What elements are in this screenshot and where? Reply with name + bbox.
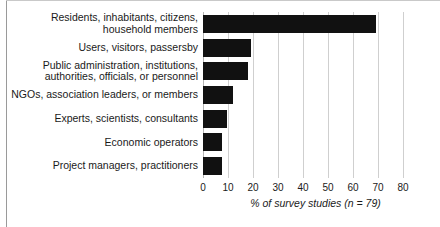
category-label: Economic operators <box>10 137 198 149</box>
gridline-70 <box>378 12 379 178</box>
category-label: Experts, scientists, consultants <box>10 113 198 125</box>
bar <box>203 86 233 104</box>
bar-row <box>203 62 248 80</box>
x-axis-title: % of survey studies (n = 79) <box>203 197 428 209</box>
x-tick-label-70: 70 <box>372 182 383 193</box>
category-label: Project managers, practitioners <box>10 160 198 172</box>
bar-row <box>203 133 222 151</box>
gridline-30 <box>278 12 279 178</box>
bar-chart-figure: Residents, inhabitants, citizens, househ… <box>0 0 440 227</box>
x-tick-label-50: 50 <box>322 182 333 193</box>
bar <box>203 133 222 151</box>
x-tick-label-0: 0 <box>200 182 206 193</box>
bar-row <box>203 110 227 128</box>
plot-area: 01020304050607080 <box>203 12 428 178</box>
gridline-20 <box>253 12 254 178</box>
bar <box>203 157 222 175</box>
bar-row <box>203 157 222 175</box>
category-label: Users, visitors, passersby <box>10 42 198 54</box>
gridline-40 <box>303 12 304 178</box>
bar-row <box>203 86 233 104</box>
gridline-80 <box>403 12 404 178</box>
x-tick-label-10: 10 <box>222 182 233 193</box>
category-axis-labels: Residents, inhabitants, citizens, househ… <box>10 0 198 186</box>
figure-border-left <box>6 0 7 227</box>
category-label: Residents, inhabitants, citizens, househ… <box>10 12 198 35</box>
x-tick-label-40: 40 <box>297 182 308 193</box>
category-label: Public administration, institutions, aut… <box>10 60 198 83</box>
gridline-60 <box>353 12 354 178</box>
category-label: NGOs, association leaders, or members <box>10 89 198 101</box>
bar <box>203 39 251 57</box>
gridline-50 <box>328 12 329 178</box>
bar-row <box>203 15 376 33</box>
bar <box>203 110 227 128</box>
bar <box>203 62 248 80</box>
x-tick-label-30: 30 <box>272 182 283 193</box>
x-tick-label-80: 80 <box>397 182 408 193</box>
bar-row <box>203 39 251 57</box>
bar <box>203 15 376 33</box>
x-tick-label-60: 60 <box>347 182 358 193</box>
x-tick-label-20: 20 <box>247 182 258 193</box>
